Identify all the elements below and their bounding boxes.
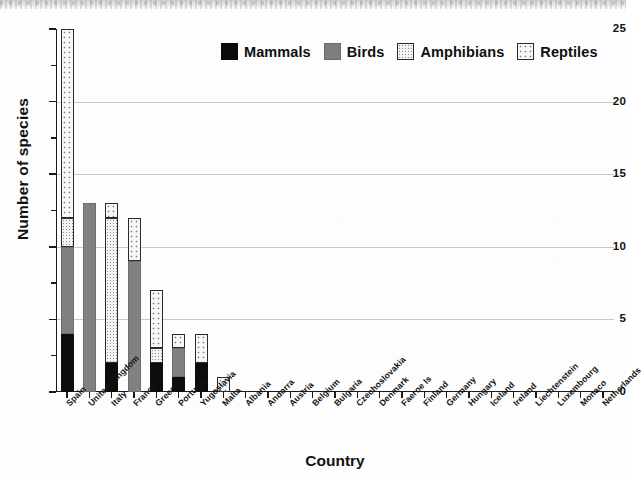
y-axis-tick-major: [49, 246, 56, 248]
y-axis-tick-major: [49, 101, 56, 103]
bar-segment-birds: [61, 247, 74, 334]
bar-segment-reptiles: [172, 334, 185, 349]
bar-segment-reptiles: [150, 290, 163, 348]
bar-segment-reptiles: [128, 218, 141, 262]
bar-segment-mammals: [61, 334, 74, 392]
legend-item-amphibians: Amphibians: [397, 43, 504, 60]
legend-item-mammals: Mammals: [221, 43, 311, 60]
chart-legend: MammalsBirdsAmphibiansReptiles: [221, 43, 598, 60]
legend-label: Mammals: [244, 44, 311, 60]
legend-label: Amphibians: [420, 44, 504, 60]
bar-group: [150, 290, 163, 392]
bars-group: [56, 29, 614, 392]
bar-segment-reptiles: [105, 203, 118, 218]
bar-group: [83, 203, 96, 392]
bar-segment-reptiles: [195, 334, 208, 363]
bar-segment-amphibians: [105, 218, 118, 363]
legend-swatch-amphibians-icon: [397, 43, 414, 60]
y-axis-tick-major: [49, 28, 56, 30]
bar-group: [61, 29, 74, 392]
y-axis-title: Number of species: [14, 74, 32, 264]
bar-segment-birds: [172, 348, 185, 377]
x-axis-title: Country: [56, 452, 614, 470]
bar-segment-reptiles: [61, 29, 74, 218]
bar-segment-amphibians: [150, 348, 163, 363]
legend-swatch-mammals-icon: [221, 43, 238, 60]
bar-segment-birds: [83, 203, 96, 392]
y-axis-tick-major: [49, 319, 56, 321]
bar-group: [105, 203, 118, 392]
bar-segment-amphibians: [61, 218, 74, 247]
bar-segment-birds: [128, 261, 141, 392]
legend-item-reptiles: Reptiles: [517, 43, 597, 60]
legend-label: Reptiles: [540, 44, 597, 60]
y-axis-tick-major: [49, 391, 56, 393]
legend-item-birds: Birds: [324, 43, 385, 60]
y-axis-tick-major: [49, 173, 56, 175]
legend-swatch-birds-icon: [324, 43, 341, 60]
legend-label: Birds: [347, 44, 385, 60]
legend-swatch-reptiles-icon: [517, 43, 534, 60]
